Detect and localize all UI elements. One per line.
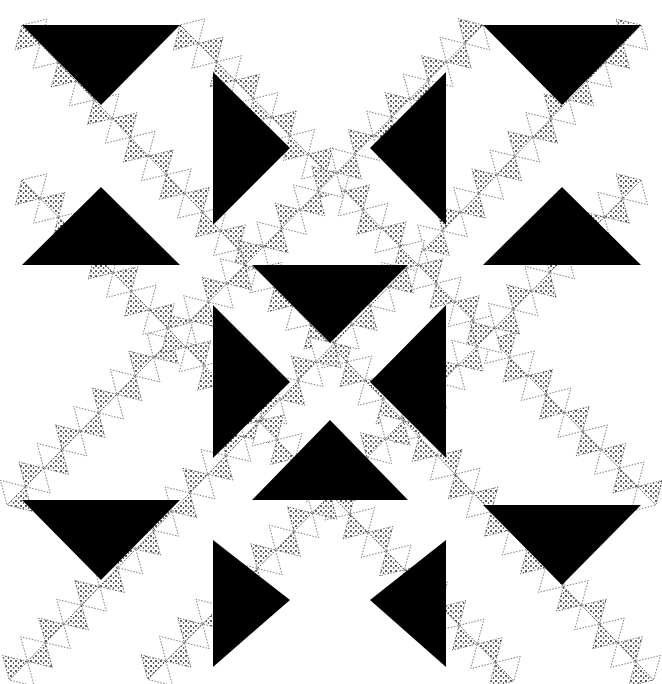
quilt-pattern-illustration xyxy=(0,0,662,684)
